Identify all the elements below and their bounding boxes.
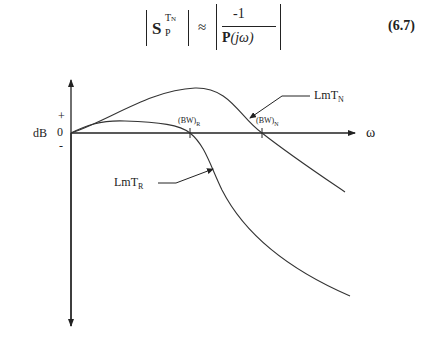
lmt-r-label: LmTR — [114, 175, 143, 191]
lmt-r-curve — [71, 121, 350, 296]
omega-label: ω — [366, 125, 375, 141]
lmt-r-leader-arrow — [158, 169, 213, 183]
y-axis-label: dB — [33, 126, 47, 141]
zero-label: 0 — [57, 125, 63, 140]
lmt-n-curve — [71, 88, 345, 192]
lmt-n-leader-arrow — [250, 96, 310, 118]
bode-plot — [0, 0, 429, 338]
bw-r-label: (BW)R — [178, 116, 200, 127]
plus-label: + — [58, 109, 65, 124]
lmt-n-label: LmTN — [314, 88, 344, 104]
minus-label: - — [59, 139, 63, 154]
bw-n-label: (BW)N — [256, 116, 279, 127]
